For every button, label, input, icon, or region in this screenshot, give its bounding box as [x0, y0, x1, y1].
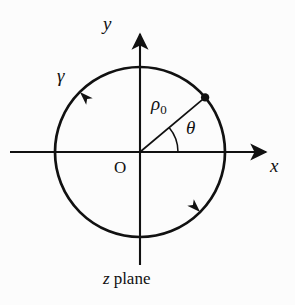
caption-z-symbol: z [103, 269, 110, 288]
contour-label-gamma: γ [57, 66, 65, 85]
rho-subscript: 0 [160, 102, 167, 117]
rho-symbol: ρ [151, 93, 160, 114]
circle-point-marker [201, 93, 209, 101]
y-axis-label: y [103, 14, 111, 33]
figure-caption: zplane [103, 270, 150, 287]
caption-plane-word: plane [114, 269, 151, 288]
x-axis-label: x [270, 156, 278, 175]
radius-label-rho-zero: ρ0 [151, 94, 167, 116]
origin-label: O [114, 159, 126, 176]
theta-angle-arc [169, 128, 178, 152]
angle-label-theta: θ [186, 118, 195, 137]
diagram-canvas [0, 0, 295, 305]
z-plane-figure: y x O γ ρ0 θ zplane [0, 0, 295, 305]
